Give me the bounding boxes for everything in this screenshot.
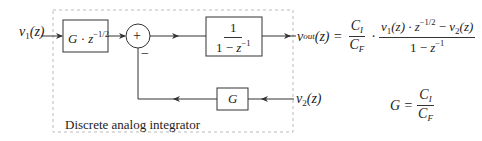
gain-equation: G = CI CF bbox=[390, 88, 435, 124]
integrator-title-label: Discrete analog integrator bbox=[65, 118, 200, 131]
delay-block-label: G · z−1/2 bbox=[68, 30, 109, 45]
integrator-block-label: 1 1 − z−1 bbox=[214, 21, 252, 54]
gain-block-label: G bbox=[228, 92, 237, 105]
input2-label: v2(z) bbox=[296, 92, 322, 108]
integrator-boundary bbox=[53, 10, 293, 132]
sum-minus: − bbox=[141, 47, 149, 61]
output-equation: vout(z) = CI CF · v1(z) · z−1/2 − v2(z) … bbox=[297, 18, 475, 55]
input1-label: v1(z) bbox=[19, 25, 45, 41]
sum-plus: + bbox=[133, 29, 141, 43]
